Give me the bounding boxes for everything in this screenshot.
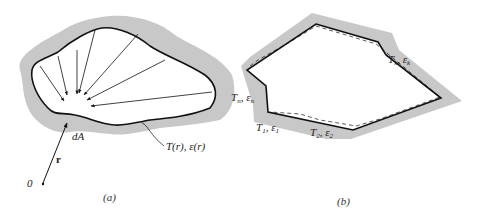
panel-b: Tk, εk Tn, εn T1, ε1 T2, ε2 (b) [231, 13, 462, 208]
label-Tk-ek: Tk, εk [388, 53, 411, 67]
position-vector-r [43, 123, 67, 183]
label-r: r [56, 153, 61, 165]
label-dA: dA [72, 130, 85, 142]
origin-point [42, 183, 44, 185]
caption-a: (a) [103, 191, 116, 204]
panel-a: dA r 0 T(r), ε(r) (a) [19, 16, 234, 204]
radiation-enclosure-diagram: dA r 0 T(r), ε(r) (a) Tk, εk Tn, εn T1, … [0, 0, 482, 219]
label-origin: 0 [27, 177, 33, 189]
label-surface-temp-emissivity: T(r), ε(r) [166, 140, 206, 153]
caption-b: (b) [337, 195, 350, 208]
